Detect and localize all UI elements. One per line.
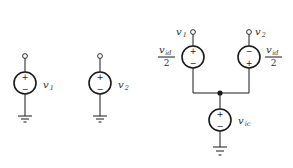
minus-sign: −: [190, 59, 197, 68]
svg-text:2: 2: [271, 58, 277, 68]
ground-icon: [93, 116, 107, 122]
ground-icon: [18, 116, 32, 122]
v1-label: v1: [43, 79, 54, 92]
plus-sign: +: [97, 73, 104, 82]
svg-text:vid: vid: [159, 44, 171, 57]
plus-sign: +: [217, 110, 224, 119]
minus-sign: −: [217, 122, 224, 131]
v2-label: v2: [118, 79, 129, 92]
minus-sign: −: [246, 47, 253, 56]
minus-sign: −: [22, 85, 29, 94]
svg-text:vid: vid: [266, 44, 278, 57]
vid-right-label: vid 2: [265, 44, 282, 68]
plus-sign: +: [190, 47, 197, 56]
v1-terminal-label: v1: [176, 26, 187, 39]
circuit-diagram: + − v1 + − v2 v1 v2 + −: [0, 0, 293, 168]
vic-label: vic: [238, 115, 251, 128]
plus-sign: +: [246, 59, 253, 68]
equivalent-circuit: v1 v2 + − vid 2 − + vid 2 + −: [158, 26, 282, 155]
v2-terminal: [247, 30, 252, 35]
plus-sign: +: [22, 73, 29, 82]
v2-source-group: + − v2: [89, 54, 129, 122]
ground-icon: [213, 147, 227, 155]
v2-terminal: [98, 54, 103, 59]
v1-source-group: + − v1: [14, 54, 54, 122]
svg-text:2: 2: [164, 58, 170, 68]
v2-terminal-label: v2: [255, 26, 266, 39]
vid-left-label: vid 2: [158, 44, 175, 68]
v1-terminal: [23, 54, 28, 59]
minus-sign: −: [97, 85, 104, 94]
v1-terminal: [191, 30, 196, 35]
